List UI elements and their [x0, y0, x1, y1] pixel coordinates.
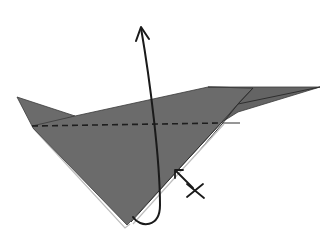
origami-diagram	[0, 0, 331, 239]
pivot-pointer-icon	[175, 170, 193, 188]
main-body	[32, 87, 253, 225]
x-mark-icon	[187, 184, 204, 198]
